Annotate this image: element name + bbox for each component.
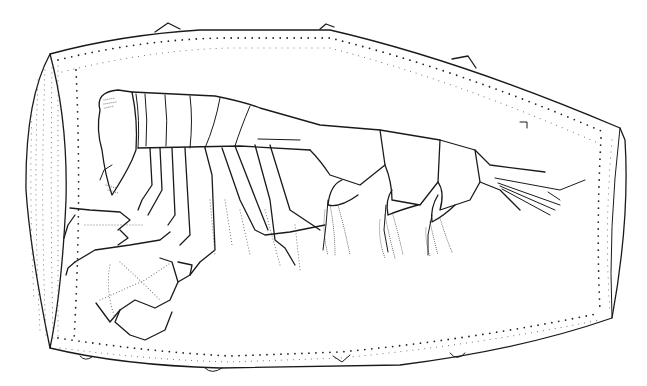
illustration: Amphipod crustacean inside barrel-shaped… — [0, 0, 647, 386]
amphipod-case-drawing — [0, 0, 647, 386]
amphipod-legs — [64, 145, 452, 340]
amphipod-body — [98, 90, 585, 222]
